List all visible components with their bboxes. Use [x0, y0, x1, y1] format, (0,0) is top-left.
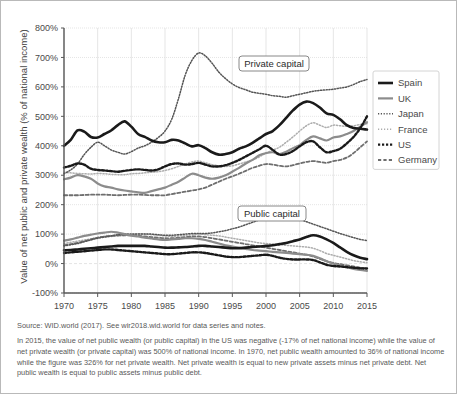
source-text: Source: WID.world (2017). See wir2018.wi…: [17, 321, 445, 330]
svg-text:200%: 200%: [35, 200, 58, 210]
note-text: In 2015, the value of net public wealth …: [17, 336, 445, 379]
svg-text:2005: 2005: [290, 301, 310, 311]
svg-text:400%: 400%: [35, 141, 58, 151]
legend-label-germany: Germany: [398, 154, 437, 165]
svg-text:100%: 100%: [35, 229, 58, 239]
series-line-us-private: [64, 116, 367, 171]
legend-label-us: US: [398, 139, 411, 150]
legend-label-japan: Japan: [398, 108, 424, 119]
x-axis-ticks: 1970197519801985199019952000200520102015: [54, 293, 377, 311]
svg-text:2010: 2010: [323, 301, 343, 311]
annotation-public-capital: Public capital: [238, 206, 306, 221]
caption-block: Source: WID.world (2017). See wir2018.wi…: [17, 321, 445, 379]
svg-text:Public capital: Public capital: [244, 208, 300, 219]
svg-text:1980: 1980: [121, 301, 141, 311]
figure-container: Value of net public and private wealth (…: [0, 0, 457, 394]
svg-text:700%: 700%: [35, 53, 58, 63]
svg-text:1990: 1990: [189, 301, 209, 311]
data-series-layer: [64, 53, 367, 271]
svg-text:1995: 1995: [222, 301, 242, 311]
svg-text:500%: 500%: [35, 112, 58, 122]
legend-label-spain: Spain: [398, 77, 422, 88]
line-chart: -100%0%100%200%300%400%500%600%700%800% …: [1, 1, 457, 319]
svg-text:600%: 600%: [35, 82, 58, 92]
svg-text:1970: 1970: [54, 301, 74, 311]
legend-label-france: France: [398, 124, 428, 135]
svg-text:800%: 800%: [35, 23, 58, 33]
svg-text:-100%: -100%: [32, 288, 58, 298]
svg-text:2000: 2000: [256, 301, 276, 311]
svg-text:1985: 1985: [155, 301, 175, 311]
chart-area: Value of net public and private wealth (…: [1, 1, 457, 319]
series-line-japan-private: [64, 53, 367, 174]
svg-text:300%: 300%: [35, 170, 58, 180]
annotation-private-capital: Private capital: [239, 56, 309, 71]
annotation-layer: Private capitalPublic capital: [238, 56, 309, 221]
svg-text:Private capital: Private capital: [244, 58, 304, 69]
y-axis-title: Value of net public and private wealth (…: [18, 17, 29, 297]
svg-text:2015: 2015: [357, 301, 377, 311]
legend-label-uk: UK: [398, 93, 412, 104]
svg-text:0%: 0%: [45, 259, 58, 269]
svg-text:1975: 1975: [88, 301, 108, 311]
series-line-spain-private: [64, 102, 367, 155]
y-axis-ticks: -100%0%100%200%300%400%500%600%700%800%: [32, 23, 64, 298]
chart-legend: SpainUKJapanFranceUSGermany: [373, 71, 439, 169]
